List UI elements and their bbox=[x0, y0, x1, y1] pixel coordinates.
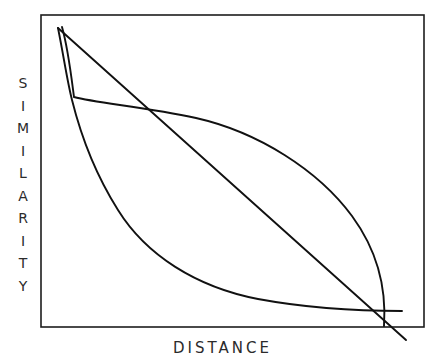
y-axis-label-letter: I bbox=[10, 95, 36, 118]
y-axis-label-letter: M bbox=[10, 117, 36, 140]
y-axis-label-letter: A bbox=[10, 185, 36, 208]
y-axis-label-letter: L bbox=[10, 162, 36, 185]
plot-frame bbox=[41, 15, 424, 327]
y-axis-label-letter: Y bbox=[10, 275, 36, 298]
y-axis-label-letter: T bbox=[10, 252, 36, 275]
y-axis-label-letter: I bbox=[10, 230, 36, 253]
y-axis-label: S I M I L A R I T Y bbox=[10, 72, 36, 297]
y-axis-label-letter: R bbox=[10, 207, 36, 230]
x-axis-label: DISTANCE bbox=[0, 339, 445, 357]
y-axis-label-letter: I bbox=[10, 140, 36, 163]
y-axis-label-letter: S bbox=[10, 72, 36, 95]
similarity-distance-chart bbox=[0, 0, 445, 363]
